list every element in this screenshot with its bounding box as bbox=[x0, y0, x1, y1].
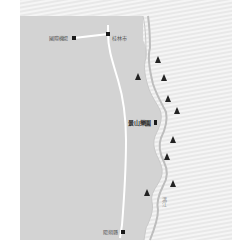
city-label: 桂林市 bbox=[112, 35, 126, 41]
county-label: 陽朔縣 bbox=[103, 229, 117, 235]
city-marker-icon bbox=[106, 32, 110, 36]
river-label: 漓江 bbox=[161, 197, 167, 207]
county-marker-icon bbox=[121, 230, 125, 234]
land-area bbox=[20, 16, 162, 240]
airport-label: 國際機場 bbox=[49, 35, 68, 41]
attraction-marker-icon bbox=[154, 120, 157, 125]
airport-marker-icon bbox=[72, 36, 76, 40]
attraction-label: 景山樂園 bbox=[128, 120, 151, 126]
